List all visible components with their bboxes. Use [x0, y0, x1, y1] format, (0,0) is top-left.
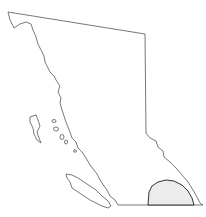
province-outline — [8, 12, 203, 205]
coastal-island — [54, 127, 59, 131]
coastal-island — [60, 135, 64, 140]
vancouver-island — [66, 174, 111, 208]
coastal-island — [52, 120, 56, 123]
highlighted-region[interactable] — [148, 180, 194, 205]
map-canvas — [0, 0, 206, 217]
coastal-island — [74, 150, 77, 152]
haida-gwaii-island — [30, 115, 41, 143]
coastal-island — [65, 140, 68, 144]
